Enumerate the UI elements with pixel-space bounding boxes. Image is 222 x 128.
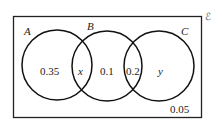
region-a-and-b: x: [78, 66, 83, 77]
universal-set-label: ℰ: [205, 12, 211, 22]
region-a-only: 0.35: [40, 66, 59, 77]
region-b-only: 0.1: [100, 66, 114, 77]
set-a-label: A: [24, 26, 31, 37]
set-c-label: C: [181, 26, 188, 37]
region-c-only: y: [158, 66, 163, 77]
region-outside: 0.05: [170, 104, 189, 115]
set-b-label: B: [87, 21, 94, 32]
region-b-and-c: 0.2: [126, 66, 140, 77]
